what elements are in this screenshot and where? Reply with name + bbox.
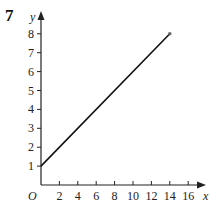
y-tick-label: 4 (28, 102, 34, 116)
y-tick-label: 6 (28, 65, 34, 79)
x-tick-label: 2 (56, 189, 62, 203)
data-series (41, 32, 172, 166)
x-tick-label: 12 (145, 189, 157, 203)
x-tick-label: 6 (93, 189, 99, 203)
series-line (41, 34, 170, 166)
line-chart: xyO 24681012141612345678 (0, 0, 219, 211)
y-axis-arrow-icon (38, 11, 45, 20)
x-tick-label: 14 (164, 189, 176, 203)
y-tick-label: 5 (28, 84, 34, 98)
x-tick-label: 4 (75, 189, 81, 203)
y-tick-label: 7 (28, 46, 34, 60)
x-tick-label: 10 (127, 189, 139, 203)
y-tick-label: 3 (28, 121, 34, 135)
x-axis-arrow-icon (197, 182, 206, 189)
y-tick-label: 8 (28, 27, 34, 41)
origin-label: O (28, 189, 37, 203)
y-tick-label: 2 (28, 140, 34, 154)
y-tick-label: 1 (28, 159, 34, 173)
y-axis-label: y (29, 10, 36, 24)
ticks: 24681012141612345678 (28, 27, 194, 203)
x-tick-label: 8 (112, 189, 118, 203)
endpoint-dot-icon (168, 32, 172, 36)
x-axis-label: x (202, 189, 209, 203)
axes: xyO (28, 10, 209, 203)
x-tick-label: 16 (182, 189, 194, 203)
